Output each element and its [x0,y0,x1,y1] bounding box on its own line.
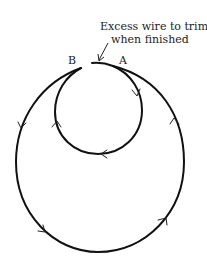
annotation-line-2: when finished [100,33,200,46]
inner-loop [55,66,142,154]
point-a-label: A [119,55,127,67]
outer-loop [16,66,184,252]
annotation-text: Excess wire to trim when finished [100,20,200,46]
excess-wire [92,63,113,66]
annotation-line-1: Excess wire to trim [100,20,200,33]
point-b-label: B [68,55,76,67]
